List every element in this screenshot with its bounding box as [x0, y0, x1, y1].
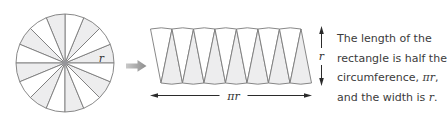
figure-circle-area-derivation: r πr r The length of therectangle is hal…	[0, 0, 447, 121]
caption-text: The length of therectangle is half theci…	[337, 29, 447, 107]
caption-segment: The length of the	[337, 32, 432, 45]
arrowhead-left-icon	[150, 93, 158, 98]
circle-center-dot	[62, 60, 67, 65]
caption-line: circumference, πr,	[337, 68, 447, 88]
strip-length-label: πr	[226, 90, 240, 103]
caption-math-term: πr	[423, 71, 436, 84]
caption-line: and the width is r.	[337, 88, 447, 108]
caption-segment: circumference,	[337, 71, 423, 84]
arrowhead-down-icon	[319, 78, 324, 86]
caption-line: rectangle is half the	[337, 49, 447, 69]
arrowhead-up-icon	[319, 26, 324, 34]
arrowhead-right-icon	[304, 93, 312, 98]
sectors-rearranged-strip	[151, 28, 312, 84]
caption-segment: ,	[435, 71, 439, 84]
circle-radius-label: r	[99, 52, 105, 65]
caption-segment: and the width is	[337, 91, 429, 104]
caption-segment: .	[434, 91, 438, 104]
caption-line: The length of the	[337, 29, 447, 49]
strip-width-label: r	[319, 50, 325, 63]
caption-segment: rectangle is half the	[337, 52, 447, 65]
transform-arrow-icon	[126, 60, 147, 72]
